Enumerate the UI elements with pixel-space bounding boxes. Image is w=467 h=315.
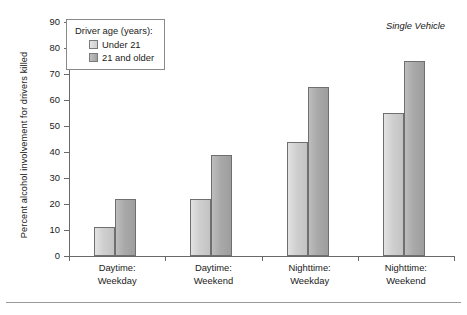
y-tick-label: 30	[50, 172, 60, 183]
legend-item: Under 21	[89, 39, 154, 50]
legend-swatch-icon	[89, 53, 98, 62]
legend-title: Driver age (years):	[75, 25, 154, 36]
x-tick-mark	[69, 256, 70, 261]
x-tick-mark	[262, 256, 263, 261]
legend-item: 21 and older	[89, 52, 154, 63]
bar	[211, 155, 232, 256]
y-tick-mark	[64, 100, 69, 101]
y-tick-label: 10	[50, 224, 60, 235]
y-tick-mark	[64, 152, 69, 153]
category-label-line: Weekend	[346, 275, 466, 288]
x-axis-category-label: Nighttime:Weekend	[346, 262, 466, 287]
y-tick-label: 60	[50, 94, 60, 105]
bar	[287, 142, 308, 256]
x-tick-mark	[358, 256, 359, 261]
bar	[190, 199, 211, 256]
bar	[115, 199, 136, 256]
legend: Driver age (years): Under 2121 and older	[66, 19, 165, 70]
bottom-divider	[6, 302, 461, 303]
y-tick-label: 90	[50, 16, 60, 27]
y-tick-label: 0	[55, 250, 60, 261]
y-tick-mark	[64, 204, 69, 205]
legend-item-label: 21 and older	[102, 52, 154, 63]
y-axis-title: Percent alcohol involvement for drivers …	[19, 25, 29, 265]
bar	[404, 61, 425, 256]
chart-annotation: Single Vehicle	[386, 20, 445, 31]
legend-item-label: Under 21	[102, 39, 141, 50]
y-tick-mark	[64, 126, 69, 127]
bar	[383, 113, 404, 256]
legend-swatch-icon	[89, 40, 98, 49]
bar	[308, 87, 329, 256]
bar-chart-figure: Percent alcohol involvement for drivers …	[0, 0, 467, 315]
x-tick-mark	[165, 256, 166, 261]
y-tick-label: 20	[50, 198, 60, 209]
y-tick-label: 40	[50, 146, 60, 157]
category-label-line: Nighttime:	[346, 262, 466, 275]
y-tick-mark	[64, 178, 69, 179]
bar	[94, 227, 115, 256]
x-tick-mark	[454, 256, 455, 261]
y-tick-mark	[64, 74, 69, 75]
y-tick-label: 50	[50, 120, 60, 131]
y-tick-label: 70	[50, 68, 60, 79]
y-tick-mark	[64, 230, 69, 231]
y-tick-label: 80	[50, 42, 60, 53]
legend-items: Under 2121 and older	[75, 39, 154, 63]
